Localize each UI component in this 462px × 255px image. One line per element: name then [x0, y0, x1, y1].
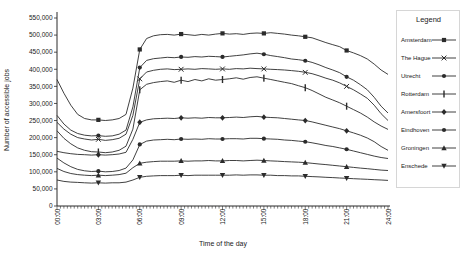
marker-square	[220, 31, 224, 35]
legend-label: The Hague	[401, 55, 431, 61]
y-tick-label: 250,000	[29, 117, 53, 124]
marker-square	[96, 118, 100, 122]
y-tick-label: 350,000	[29, 83, 53, 90]
marker-diamond	[344, 128, 349, 134]
legend-label: Amersfoort	[401, 109, 430, 115]
x-axis-title: Time of the day	[199, 240, 247, 248]
y-tick-label: 0	[49, 202, 53, 209]
y-tick-label: 100,000	[29, 168, 53, 175]
x-tick-label: 06:00	[136, 208, 143, 225]
marker-circle	[220, 137, 224, 141]
y-tick-label: 150,000	[29, 151, 53, 158]
marker-diamond	[303, 118, 308, 124]
x-tick-label: 24:00	[385, 208, 392, 225]
marker-circle	[138, 142, 142, 146]
legend-swatch-triangle-up-icon	[432, 143, 456, 153]
series-lines	[57, 31, 388, 185]
x-tick-label: 21:00	[343, 208, 350, 225]
marker-vbar	[222, 76, 223, 83]
marker-circle	[442, 128, 446, 132]
legend-item: Utrecht	[401, 67, 456, 85]
y-tick-label: 550,000	[29, 14, 53, 21]
accessible-jobs-chart-figure: Number of accessible jobs Time of the da…	[0, 0, 462, 255]
legend-item: Enschede	[401, 157, 456, 175]
x-tick-label: 15:00	[260, 208, 267, 225]
marker-vbar	[443, 91, 444, 98]
marker-vbar	[346, 103, 347, 110]
marker-square	[138, 47, 142, 51]
marker-square	[179, 32, 183, 36]
legend-swatch-vbar-icon	[432, 89, 456, 99]
marker-diamond	[442, 109, 447, 115]
x-tick-label: 18:00	[302, 208, 309, 225]
marker-vbar	[139, 86, 140, 93]
marker-square	[262, 31, 266, 35]
marker-circle	[345, 147, 349, 151]
x-tick-label: 03:00	[95, 208, 102, 225]
marker-vbar	[305, 84, 306, 91]
axes: 050,000100,000150,000200,000250,000300,0…	[29, 12, 392, 225]
marker-square	[345, 48, 349, 52]
legend-swatch-circle-icon	[432, 71, 456, 81]
marker-circle	[442, 74, 446, 78]
legend-item: Groningen	[401, 139, 456, 157]
marker-circle	[179, 55, 183, 59]
legend-item: Rotterdam	[401, 85, 456, 103]
legend-swatch-square-icon	[432, 35, 456, 45]
marker-diamond	[179, 115, 184, 121]
legend-label: Enschede	[401, 163, 428, 169]
marker-square	[442, 38, 446, 42]
x-tick-label: 09:00	[178, 208, 185, 225]
marker-vbar	[263, 75, 264, 82]
marker-square	[303, 35, 307, 39]
legend-label: Utrecht	[401, 73, 420, 79]
legend-box: Legend AmsterdamThe HagueUtrechtRotterda…	[396, 10, 460, 188]
legend-label: Eindhoven	[401, 127, 429, 133]
marker-vbar	[180, 77, 181, 84]
legend-item: The Hague	[401, 49, 456, 67]
y-tick-label: 400,000	[29, 66, 53, 73]
marker-diamond	[220, 115, 225, 121]
legend-item: Amsterdam	[401, 31, 456, 49]
legend-swatch-x-icon	[432, 53, 456, 63]
marker-circle	[303, 59, 307, 63]
y-tick-label: 200,000	[29, 134, 53, 141]
x-tick-label: 00:00	[54, 208, 61, 225]
legend-title: Legend	[401, 15, 456, 24]
x-tick-label: 12:00	[219, 208, 226, 225]
marker-diamond	[96, 152, 101, 158]
legend-label: Rotterdam	[401, 91, 429, 97]
legend-swatch-diamond-icon	[432, 107, 456, 117]
series-path	[57, 77, 388, 153]
marker-diamond	[261, 114, 266, 120]
y-tick-label: 450,000	[29, 48, 53, 55]
y-tick-label: 50,000	[33, 185, 53, 192]
legend-item: Eindhoven	[401, 121, 456, 139]
legend-swatch-triangle-down-icon	[432, 161, 456, 171]
line-chart-svg: Number of accessible jobs Time of the da…	[0, 0, 462, 255]
y-axis-title: Number of accessible jobs	[3, 68, 11, 151]
marker-circle	[138, 65, 142, 69]
legend-label: Amsterdam	[401, 37, 432, 43]
series-path	[57, 53, 388, 136]
marker-circle	[262, 137, 266, 141]
legend-swatch-circle-icon	[432, 125, 456, 135]
series-path	[57, 116, 388, 155]
series-utrecht	[57, 52, 388, 138]
legend-item: Amersfoort	[401, 103, 456, 121]
marker-circle	[220, 55, 224, 59]
marker-circle	[96, 133, 100, 137]
y-tick-label: 300,000	[29, 100, 53, 107]
y-tick-label: 500,000	[29, 31, 53, 38]
marker-circle	[345, 75, 349, 79]
legend-items: AmsterdamThe HagueUtrechtRotterdamAmersf…	[401, 31, 456, 175]
marker-circle	[179, 137, 183, 141]
marker-diamond	[137, 119, 142, 125]
marker-circle	[303, 140, 307, 144]
marker-circle	[262, 52, 266, 56]
series-enschede	[57, 173, 388, 186]
legend-label: Groningen	[401, 145, 429, 151]
